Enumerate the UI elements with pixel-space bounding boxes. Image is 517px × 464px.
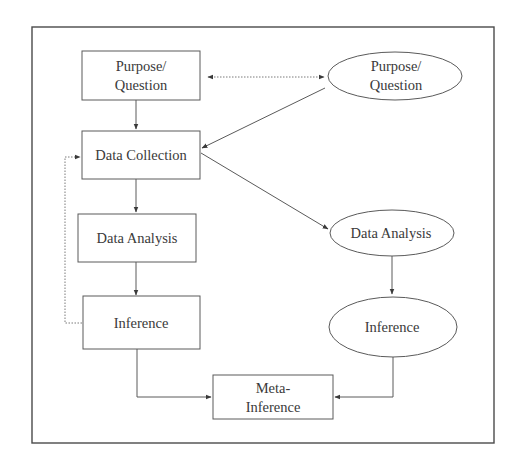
edge-right-inference-to-meta [335, 357, 393, 397]
node-label: Data Analysis [351, 225, 432, 241]
node-label: Question [370, 77, 423, 93]
node-left-data-analysis: Data Analysis [78, 214, 196, 262]
edge-left-inference-to-meta [137, 349, 211, 397]
node-label: Purpose/ [116, 58, 168, 74]
node-right-data-analysis: Data Analysis [330, 210, 454, 256]
node-label: Meta- [256, 380, 291, 396]
node-label: Purpose/ [371, 58, 423, 74]
node-left-purpose-question: Purpose/ Question [82, 51, 200, 100]
node-left-inference: Inference [83, 296, 200, 349]
node-right-purpose-question: Purpose/ Question [328, 52, 462, 100]
edge-collection-to-right-analysis [201, 153, 328, 229]
node-left-data-collection: Data Collection [82, 131, 200, 179]
node-label: Inference [246, 399, 301, 415]
node-meta-inference: Meta- Inference [213, 375, 333, 419]
edge-right-purpose-to-collection [202, 88, 325, 148]
node-label: Data Collection [95, 147, 187, 163]
node-right-inference: Inference [329, 297, 457, 357]
node-label: Inference [114, 315, 169, 331]
node-label: Data Analysis [97, 230, 178, 246]
mixed-methods-flow-diagram: Purpose/ Question Data Collection Data A… [0, 0, 517, 464]
node-label: Inference [365, 319, 420, 335]
node-label: Question [115, 77, 168, 93]
